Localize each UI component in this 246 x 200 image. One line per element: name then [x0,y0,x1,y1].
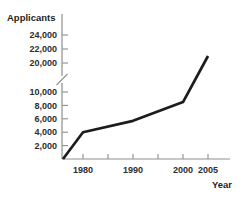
x-tick-label: 2000 [173,165,193,175]
y-tick-label: 8,000 [34,101,57,111]
y-tick-label: 10,000 [29,87,57,97]
y-tick-label: 4,000 [34,127,57,137]
x-tick-label: 1990 [123,165,143,175]
data-line-applicants [63,56,208,159]
y-tick-label: 2,000 [34,141,57,151]
y-axis-title: Applicants [7,12,56,23]
y-tick-label: 6,000 [34,114,57,124]
x-tick-label: 2005 [198,165,218,175]
applicants-line-chart: 2,0004,0006,0008,00010,00020,00022,00024… [0,0,246,200]
y-tick-label: 22,000 [29,44,57,54]
y-tick-label: 20,000 [29,58,57,68]
x-axis-title: Year [198,179,232,190]
x-tick-label: 1980 [73,165,93,175]
chart-figure: 2,0004,0006,0008,00010,00020,00022,00024… [0,0,246,200]
y-tick-label: 24,000 [29,30,57,40]
